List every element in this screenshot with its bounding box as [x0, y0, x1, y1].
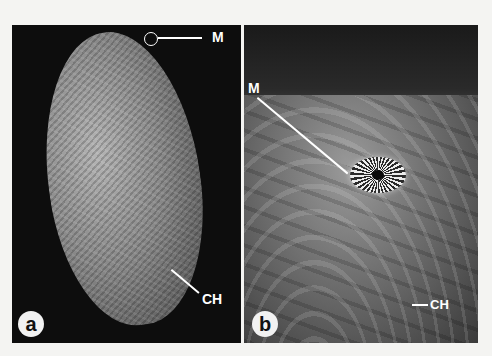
label-ch-b: CH: [430, 297, 449, 312]
panel-b: M CH b: [244, 25, 478, 343]
panel-a: M CH a: [12, 25, 241, 343]
micropyle-structure: [350, 157, 406, 193]
pointer-line-ch-b: [412, 304, 428, 306]
seed-micrograph: [28, 25, 220, 335]
panel-badge-b: b: [252, 311, 278, 337]
pointer-line-m: [158, 37, 202, 39]
label-m-a: M: [212, 29, 224, 45]
micropyle-circle-marker: [144, 32, 158, 46]
label-m-b: M: [248, 80, 260, 96]
label-ch-a: CH: [202, 291, 222, 307]
panel-badge-a: a: [18, 311, 44, 337]
